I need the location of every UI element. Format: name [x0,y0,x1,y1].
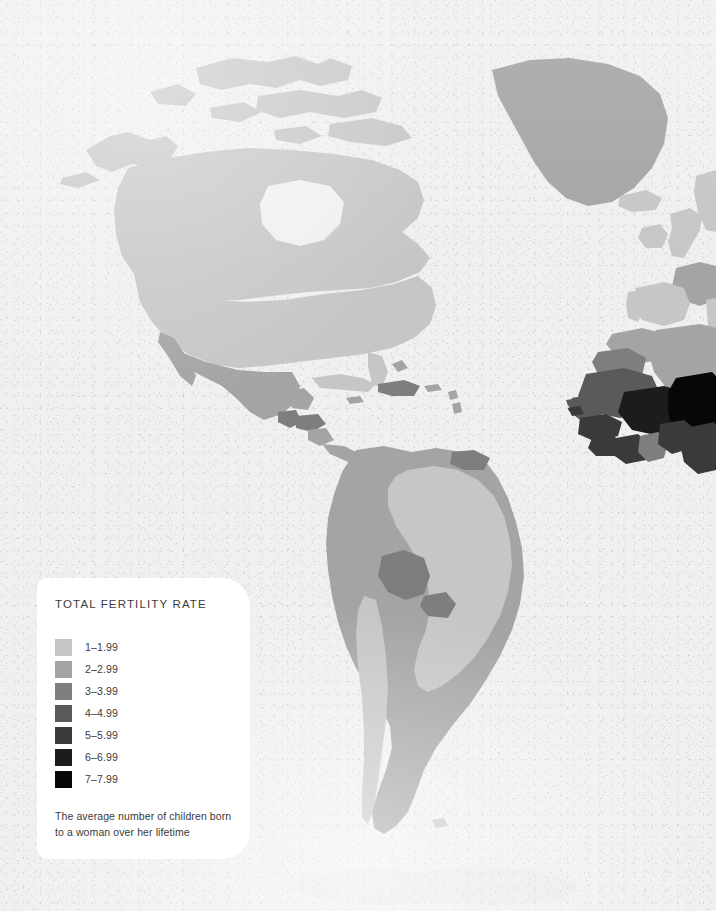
legend-label: 6–6.99 [85,752,118,763]
legend-label: 3–3.99 [85,686,118,697]
legend-row[interactable]: 3–3.99 [55,680,232,702]
region-arctic-islands [196,56,352,90]
region-arctic-island-6 [274,126,322,144]
region-uk [668,208,702,258]
legend-swatch [55,727,72,744]
region-bahamas [392,360,408,372]
region-south-america [326,446,524,834]
region-falklands [432,818,448,828]
map-page: TOTAL FERTILITY RATE 1–1.99 2–2.99 3–3.9… [0,0,716,911]
region-arctic-island-4 [150,84,196,106]
region-antarctica-hint [292,864,580,906]
region-aleutians [60,172,100,188]
region-jamaica [346,396,364,404]
region-nicaragua [308,428,334,446]
region-africa [566,324,716,474]
region-arctic-island-3 [328,118,412,146]
region-arctic-island-5 [210,102,262,122]
region-lesser-antilles-2 [452,402,462,414]
region-lesser-antilles-1 [448,390,458,400]
legend-row[interactable]: 5–5.99 [55,724,232,746]
region-arctic-island-2 [256,90,382,118]
region-ireland [638,224,668,248]
legend-caption: The average number of children born to a… [55,808,232,840]
region-puerto-rico [424,384,442,392]
region-caribbean [312,360,462,414]
legend-label: 1–1.99 [85,642,118,653]
legend-card: TOTAL FERTILITY RATE 1–1.99 2–2.99 3–3.9… [37,578,250,859]
region-greenland [492,58,668,206]
legend-swatch [55,771,72,788]
region-europe [492,58,716,330]
legend-label: 2–2.99 [85,664,118,675]
legend-label: 4–4.99 [85,708,118,719]
region-antarctica [292,864,580,906]
legend-label: 5–5.99 [85,730,118,741]
region-cuba [312,374,376,392]
legend-label: 7–7.99 [85,774,118,785]
region-italy [706,298,716,330]
region-nigeria [680,422,716,474]
legend-row[interactable]: 1–1.99 [55,636,232,658]
legend-swatch [55,683,72,700]
legend-swatch [55,705,72,722]
region-north-america [60,56,436,388]
legend-row[interactable]: 6–6.99 [55,746,232,768]
legend-row[interactable]: 4–4.99 [55,702,232,724]
legend-title: TOTAL FERTILITY RATE [55,598,232,610]
legend-row[interactable]: 7–7.99 [55,768,232,790]
legend-items: 1–1.99 2–2.99 3–3.99 4–4.99 5–5.99 6–6.9… [55,636,232,790]
legend-row[interactable]: 2–2.99 [55,658,232,680]
legend-swatch [55,661,72,678]
legend-swatch [55,749,72,766]
region-hispaniola [378,380,420,396]
legend-swatch [55,639,72,656]
